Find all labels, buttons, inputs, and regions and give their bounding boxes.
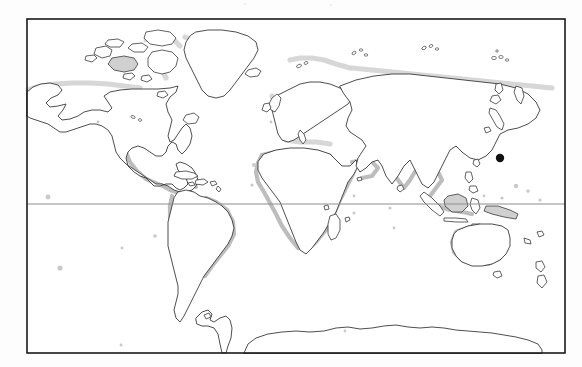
land-socotra-islet [357, 177, 362, 181]
speck-pacific-east [121, 247, 124, 250]
speck-pacific-micronesia-a [500, 196, 503, 199]
speck-indian-ocean-b [389, 207, 392, 210]
speck-indian-ocean-c [353, 195, 356, 198]
speck-pacific-south-a [57, 265, 62, 270]
islet-franz-josef-c [364, 54, 368, 56]
land-comoros-islet [324, 205, 329, 210]
speck-indian-ocean-d [393, 227, 396, 230]
islet-new-siberian-a [492, 56, 497, 59]
speck-europe-islet [270, 121, 273, 124]
land-prince-patrick-island [105, 39, 124, 47]
islet-new-siberian-b [499, 56, 503, 59]
islet-franz-josef-b [359, 49, 363, 51]
islet-new-siberian-c [505, 59, 509, 61]
world-map-canvas [0, 0, 582, 367]
speck-indian-ocean-a [353, 212, 356, 215]
speck-pacific-micronesia-b [514, 184, 518, 188]
speck-palau [483, 195, 486, 198]
scan-speck-top-right [330, 4, 332, 6]
speck-antarctic-islet [344, 330, 347, 333]
speck-pacific-micronesia-c [526, 189, 530, 193]
screenshot-root [0, 0, 582, 367]
speck-galapagos [153, 234, 157, 238]
world-map-figure [0, 0, 582, 367]
islet-severnaya-c [435, 48, 439, 50]
speck-great-lakes-islet [97, 121, 100, 124]
speck-southern-ocean-islet [120, 344, 123, 347]
speck-cape-verde [252, 163, 256, 167]
speck-pacific-micronesia-d [538, 198, 541, 201]
islet-new-siberian-d [496, 50, 498, 52]
speck-atlantic-islet [250, 183, 253, 186]
scan-speck-top-left [244, 3, 246, 5]
land-java [444, 218, 468, 222]
pacific-point-marker [496, 154, 504, 162]
speck-hawaii-west [46, 195, 51, 200]
